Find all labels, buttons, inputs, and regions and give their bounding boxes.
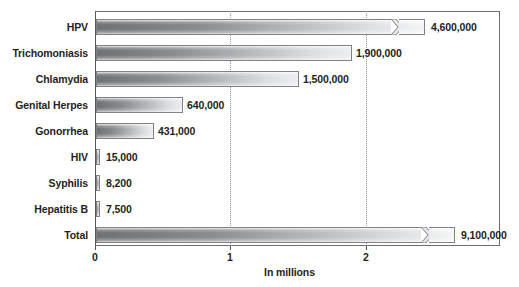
bar-total-tail bbox=[429, 227, 455, 243]
category-label-gonorrhea: Gonorrhea bbox=[0, 118, 88, 144]
x-axis-title-text: In millions bbox=[264, 266, 315, 278]
bar-chlamydia bbox=[96, 71, 299, 87]
xtick-label-2: 2 bbox=[351, 251, 381, 263]
bar-hiv bbox=[96, 149, 100, 165]
category-label-hiv: HIV bbox=[0, 144, 88, 170]
category-label-chlamydia: Chlamydia bbox=[0, 66, 88, 92]
bar-syphilis bbox=[96, 175, 100, 191]
bar-row-gonorrhea: Gonorrhea 431,000 bbox=[0, 118, 519, 144]
bar-total bbox=[96, 227, 421, 243]
bar-hpv-tail bbox=[399, 19, 425, 35]
bar-row-trichomoniasis: Trichomoniasis 1,900,000 bbox=[0, 40, 519, 66]
xtick-mark-2 bbox=[366, 246, 367, 250]
category-label-syphilis: Syphilis bbox=[0, 170, 88, 196]
bar-row-total: Total 9,100,000 bbox=[0, 222, 519, 248]
value-label-chlamydia: 1,500,000 bbox=[303, 71, 349, 87]
value-label-gonorrhea: 431,000 bbox=[158, 123, 195, 139]
bar-row-hpv: HPV 4,600,000 bbox=[0, 14, 519, 40]
category-label-hepatitis-b: Hepatitis B bbox=[0, 196, 88, 222]
bar-row-hiv: HIV 15,000 bbox=[0, 144, 519, 170]
bar-genital-herpes bbox=[96, 97, 183, 113]
xtick-mark-1 bbox=[230, 246, 231, 250]
bar-gonorrhea bbox=[96, 123, 154, 139]
bar-hepatitis-b bbox=[96, 201, 100, 217]
value-label-hpv: 4,600,000 bbox=[431, 19, 477, 35]
bar-chart: HPV 4,600,000 Trichomoniasis 1,900,000 C… bbox=[0, 0, 519, 287]
bar-hpv bbox=[96, 19, 391, 35]
category-label-total: Total bbox=[0, 222, 88, 248]
value-label-hepatitis-b: 7,500 bbox=[106, 201, 132, 217]
value-label-hiv: 15,000 bbox=[106, 149, 138, 165]
category-label-genital-herpes: Genital Herpes bbox=[0, 92, 88, 118]
value-label-syphilis: 8,200 bbox=[106, 175, 132, 191]
x-axis-title: In millions bbox=[0, 266, 519, 278]
bar-row-hepatitis-b: Hepatitis B 7,500 bbox=[0, 196, 519, 222]
category-label-trichomoniasis: Trichomoniasis bbox=[0, 40, 88, 66]
category-label-hpv: HPV bbox=[0, 14, 88, 40]
xtick-mark-0 bbox=[95, 246, 96, 250]
xtick-label-0: 0 bbox=[80, 251, 110, 263]
bar-row-chlamydia: Chlamydia 1,500,000 bbox=[0, 66, 519, 92]
value-label-total: 9,100,000 bbox=[461, 227, 507, 243]
value-label-genital-herpes: 640,000 bbox=[187, 97, 224, 113]
xtick-label-1: 1 bbox=[215, 251, 245, 263]
value-label-trichomoniasis: 1,900,000 bbox=[356, 45, 402, 61]
bar-row-genital-herpes: Genital Herpes 640,000 bbox=[0, 92, 519, 118]
bar-row-syphilis: Syphilis 8,200 bbox=[0, 170, 519, 196]
bar-trichomoniasis bbox=[96, 45, 352, 61]
